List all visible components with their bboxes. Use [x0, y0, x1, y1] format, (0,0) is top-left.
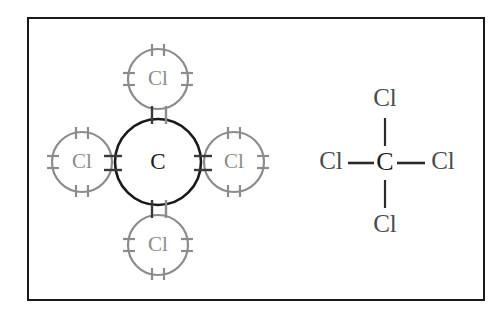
- formula-chlorine-left-label: Cl: [319, 147, 343, 174]
- carbon-label: C: [150, 149, 165, 174]
- chlorine-shell-top: Cl: [123, 44, 193, 109]
- formula-chlorine-right-label: Cl: [431, 147, 455, 174]
- formula-chlorine-top-label: Cl: [373, 84, 397, 111]
- figure-canvas: Cl Cl Cl: [0, 0, 503, 318]
- chlorine-bottom-label: Cl: [148, 232, 168, 256]
- carbon-shell: C: [115, 119, 201, 205]
- chlorine-shell-bottom: Cl: [123, 215, 193, 280]
- chlorine-right-label: Cl: [224, 149, 244, 173]
- structural-formula-panel: Cl Cl Cl Cl C: [319, 84, 455, 237]
- chlorine-shell-left: Cl: [47, 127, 112, 197]
- ccl4-diagram: Cl Cl Cl: [0, 0, 503, 318]
- chlorine-shell-right: Cl: [204, 127, 269, 197]
- formula-carbon-label: C: [376, 147, 393, 176]
- electron-shell-model-panel: Cl Cl Cl: [47, 44, 269, 280]
- formula-chlorine-bottom-label: Cl: [373, 210, 397, 237]
- chlorine-top-label: Cl: [148, 66, 168, 90]
- chlorine-left-label: Cl: [72, 149, 92, 173]
